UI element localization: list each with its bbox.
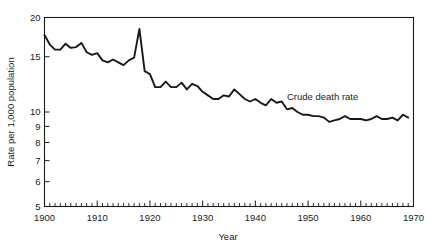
x-axis-title: Year bbox=[218, 231, 237, 242]
y-tick-label: 10 bbox=[30, 106, 41, 117]
y-tick-label: 6 bbox=[35, 176, 40, 187]
x-tick-label: 1950 bbox=[298, 212, 319, 223]
x-axis-tick-labels: 19001910192019301940195019601970 bbox=[34, 212, 424, 223]
x-tick-label: 1960 bbox=[350, 212, 371, 223]
x-tick-label: 1900 bbox=[34, 212, 55, 223]
y-tick-label: 7 bbox=[35, 155, 40, 166]
y-axis-title: Rate per 1,000 population bbox=[5, 57, 16, 166]
plot-frame bbox=[45, 18, 414, 207]
y-tick-label: 15 bbox=[30, 51, 41, 62]
x-tick-label: 1910 bbox=[87, 212, 108, 223]
series-annotation-crude-death-rate: Crude death rate bbox=[287, 91, 358, 102]
x-tick-label: 1940 bbox=[245, 212, 266, 223]
y-tick-label: 5 bbox=[35, 201, 40, 212]
x-tick-label: 1970 bbox=[403, 212, 424, 223]
chart-figure: 20151098765 1900191019201930194019501960… bbox=[0, 0, 440, 247]
y-tick-label: 8 bbox=[35, 137, 40, 148]
crude-death-rate-line-chart: 20151098765 1900191019201930194019501960… bbox=[0, 0, 440, 247]
y-axis-ticks bbox=[45, 18, 50, 207]
y-axis-tick-labels: 20151098765 bbox=[30, 12, 41, 212]
y-tick-label: 20 bbox=[30, 12, 41, 23]
x-tick-label: 1930 bbox=[192, 212, 213, 223]
series-line-crude-death-rate bbox=[45, 29, 409, 122]
y-tick-label: 9 bbox=[35, 121, 40, 132]
x-tick-label: 1920 bbox=[139, 212, 160, 223]
